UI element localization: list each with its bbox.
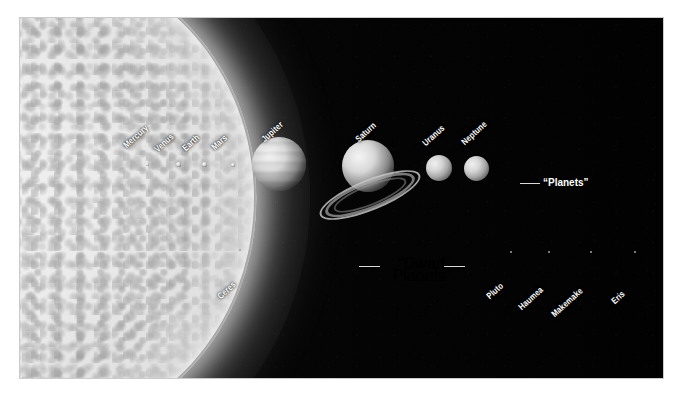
- saturn-terminator-shading: [342, 140, 394, 192]
- dwarf-planet-makemake: [590, 251, 592, 253]
- planets-callout-leader-line: [520, 183, 540, 184]
- dwarf-planet-eris: [634, 251, 636, 253]
- dwarf-planet-haumea: [548, 251, 550, 253]
- planet-neptune: [464, 156, 489, 181]
- planet-venus: [176, 162, 181, 167]
- planet-jupiter: [252, 137, 306, 191]
- planets-callout-label: “Planets”: [543, 177, 589, 188]
- sun: [20, 18, 254, 378]
- planet-earth: [202, 162, 207, 167]
- photograph: Mercury Venus Earth Mars Jupiter Saturn …: [20, 18, 663, 378]
- dwarf-planets-callout-line-2: Planets”: [391, 270, 453, 282]
- sun-limb-glow: [20, 18, 257, 378]
- planet-saturn: [342, 140, 394, 192]
- planet-mars: [231, 163, 235, 167]
- dwarf-planet-ceres: [239, 249, 241, 251]
- dwarf-planets-callout-label: “Dwarf Planets”: [391, 258, 453, 282]
- jupiter-terminator-shading: [252, 137, 306, 191]
- planet-uranus: [426, 155, 452, 181]
- dwarf-planets-callout-leader-line-left: [359, 266, 380, 267]
- solar-system-figure: Mercury Venus Earth Mars Jupiter Saturn …: [0, 0, 680, 408]
- dwarf-planet-pluto: [510, 251, 512, 253]
- planet-mercury: [146, 163, 149, 166]
